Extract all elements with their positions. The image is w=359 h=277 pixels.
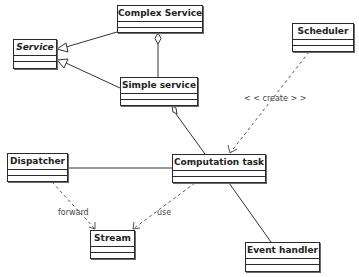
class-computation-task[interactable]: Computation task <box>172 154 266 183</box>
class-name: Service <box>14 40 56 56</box>
class-name: Complex Service <box>118 6 202 22</box>
hollow-diamond-icon <box>155 33 161 44</box>
class-dispatcher[interactable]: Dispatcher <box>7 153 68 182</box>
class-stream[interactable]: Stream <box>90 230 135 259</box>
generalization-complex-to-service <box>57 32 117 52</box>
operations-compartment <box>8 176 67 181</box>
operations-compartment <box>246 265 319 271</box>
aggregation-simple-computation <box>172 106 205 154</box>
operations-compartment <box>293 46 353 51</box>
operations-compartment <box>118 28 202 32</box>
hollow-triangle-arrow-icon <box>57 43 68 52</box>
class-complex-service[interactable]: Complex Service <box>117 5 203 33</box>
forward-label: forward <box>58 208 89 217</box>
operations-compartment <box>91 253 134 258</box>
class-simple-service[interactable]: Simple service <box>120 77 198 106</box>
open-arrow-icon <box>228 145 237 153</box>
operations-compartment <box>121 100 197 105</box>
operations-compartment <box>173 177 265 182</box>
class-name: Event handler <box>246 243 319 259</box>
aggregation-complex-simple <box>155 33 161 77</box>
class-scheduler[interactable]: Scheduler <box>292 23 354 52</box>
association-computation-eventhandler <box>229 183 271 242</box>
dependency-computation-stream <box>133 183 195 229</box>
use-label: use <box>157 208 171 217</box>
open-arrow-icon <box>133 222 140 229</box>
class-name: Computation task <box>173 155 265 171</box>
hollow-triangle-arrow-icon <box>57 59 68 68</box>
dependency-dispatcher-stream <box>52 182 95 229</box>
operations-compartment <box>14 62 56 68</box>
create-stereotype-label: < < create > > <box>244 94 306 103</box>
class-service[interactable]: Service <box>13 39 57 69</box>
generalization-simple-to-service <box>57 59 120 88</box>
class-name: Dispatcher <box>8 154 67 170</box>
class-event-handler[interactable]: Event handler <box>245 242 320 272</box>
class-name: Simple service <box>121 78 197 94</box>
class-name: Stream <box>91 231 134 247</box>
hollow-diamond-icon <box>172 106 177 114</box>
class-name: Scheduler <box>293 24 353 40</box>
